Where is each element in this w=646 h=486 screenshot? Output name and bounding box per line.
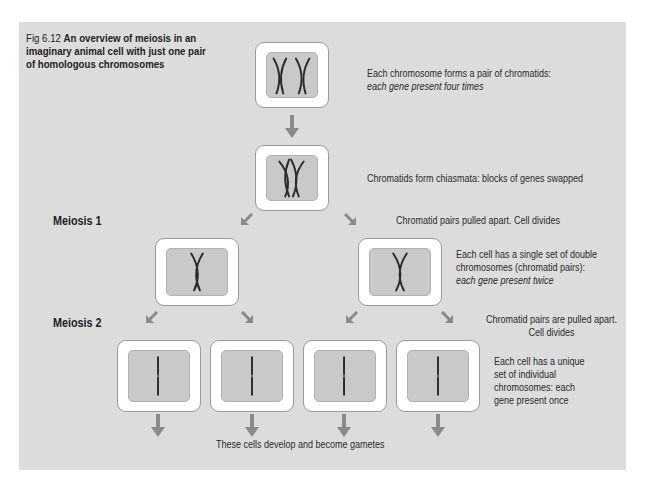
parent-cell	[255, 42, 329, 108]
arrow-down-right-icon	[440, 310, 454, 324]
arrow-down-icon	[245, 414, 259, 438]
annotation-step6: Each cell has a unique set of individual…	[494, 355, 585, 407]
arrow-down-icon	[337, 414, 351, 438]
arrow-down-icon	[151, 414, 165, 438]
arrow-down-icon	[285, 115, 299, 139]
single-chromosome-icon	[304, 341, 386, 411]
single-chromosome-icon	[118, 341, 200, 411]
arrow-down-left-icon	[145, 310, 159, 324]
gamete-cell-4	[396, 340, 480, 412]
figure-number: Fig 6.12	[26, 32, 61, 44]
arrow-down-right-icon	[240, 310, 254, 324]
arrow-down-left-icon	[240, 212, 254, 226]
gamete-cell-1	[117, 340, 201, 412]
figure-caption: Fig 6.12 An overview of meiosis in an im…	[26, 32, 210, 71]
chromosome-pair-icon	[256, 43, 328, 107]
annotation-step4: Each cell has a single set of double chr…	[456, 248, 597, 287]
chromatid-pair-icon	[359, 239, 441, 305]
meiosis-2-label: Meiosis 2	[53, 316, 102, 330]
annotation-step3: Chromatid pairs pulled apart. Cell divid…	[396, 214, 560, 227]
annotation-final: These cells develop and become gametes	[216, 438, 385, 451]
crossing-over-icon	[256, 146, 328, 210]
chromatid-pair-icon	[156, 239, 238, 305]
gamete-cell-2	[210, 340, 294, 412]
meiosis-1-label: Meiosis 1	[53, 214, 102, 228]
gamete-cell-3	[303, 340, 387, 412]
meiosis1-daughter-right	[358, 238, 442, 306]
meiosis1-daughter-left	[155, 238, 239, 306]
arrow-down-left-icon	[345, 310, 359, 324]
single-chromosome-icon	[397, 341, 479, 411]
single-chromosome-icon	[211, 341, 293, 411]
annotation-step5: Chromatid pairs are pulled apart. Cell d…	[486, 313, 617, 339]
annotation-step1: Each chromosome forms a pair of chromati…	[367, 67, 551, 93]
annotation-step2: Chromatids form chiasmata: blocks of gen…	[367, 172, 583, 185]
arrow-down-icon	[431, 414, 445, 438]
chiasmata-cell	[255, 145, 329, 211]
arrow-down-right-icon	[343, 212, 357, 226]
